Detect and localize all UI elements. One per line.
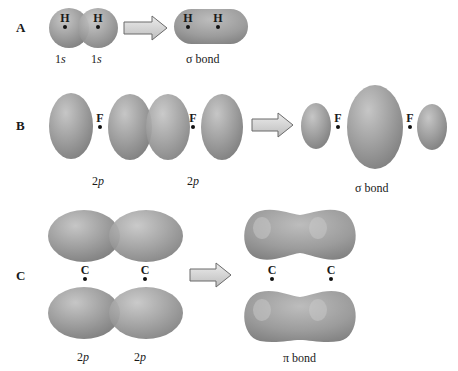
orbital-label-2p-right: 2p (187, 174, 199, 189)
panel-c-before-orbitals (48, 210, 183, 339)
arrow-a (124, 16, 167, 40)
orbital-label-1s-left: 1s (55, 52, 66, 67)
atom-f-bond-left: F (331, 112, 345, 129)
nucleus-dot (98, 125, 102, 129)
nucleus-dot (96, 25, 100, 29)
panel-label-b: B (16, 118, 25, 134)
result-label-a: σ bond (186, 52, 219, 67)
orbital-label-2p-c-right: 2p (134, 350, 146, 365)
nucleus-dot (83, 277, 87, 281)
nucleus-dot (336, 125, 340, 129)
atom-h-left: H (58, 12, 72, 29)
atom-h-right: H (91, 12, 105, 29)
orbital-label-1s-right: 1s (91, 52, 102, 67)
orbital-label-2p-left: 2p (92, 174, 104, 189)
nucleus-dot (216, 25, 220, 29)
result-label-c: π bond (283, 351, 316, 366)
atom-f-bond-right: F (403, 112, 417, 129)
nucleus-dot (186, 25, 190, 29)
arrow-c (190, 263, 231, 287)
atom-c-left: C (78, 264, 92, 281)
panel-b-before-orbitals (49, 93, 243, 160)
atom-c-right: C (138, 264, 152, 281)
panel-c-pi-bond-shapes (244, 210, 356, 342)
nucleus-dot (270, 277, 274, 281)
atom-c-bond-left: C (265, 264, 279, 281)
atom-f-left: F (93, 112, 107, 129)
orbital-label-2p-c-left: 2p (77, 350, 89, 365)
result-label-b: σ bond (355, 181, 388, 196)
atom-f-right: F (186, 112, 200, 129)
panel-b-sigma-bond-shapes (301, 85, 447, 169)
panel-label-c: C (16, 268, 25, 284)
nucleus-dot (191, 125, 195, 129)
nucleus-dot (143, 277, 147, 281)
orbital-diagram-graphics (0, 0, 458, 371)
atom-h-bond-left: H (181, 12, 195, 29)
panel-label-a: A (16, 20, 25, 36)
nucleus-dot (63, 25, 67, 29)
atom-c-bond-right: C (324, 264, 338, 281)
arrow-b (252, 113, 293, 137)
nucleus-dot (329, 277, 333, 281)
atom-h-bond-right: H (211, 12, 225, 29)
nucleus-dot (408, 125, 412, 129)
